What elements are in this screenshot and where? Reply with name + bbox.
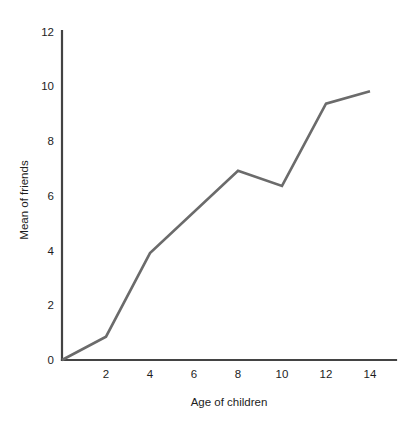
- x-axis-title: Age of children: [191, 396, 268, 408]
- x-tick-label: 14: [364, 368, 377, 380]
- x-tick-label: 8: [235, 368, 241, 380]
- x-tick-label: 10: [276, 368, 289, 380]
- y-tick-label: 10: [41, 80, 54, 92]
- chart-canvas: 12 10 8 6 4 2 0 2 4 6 8 10 12 14 Age of …: [0, 0, 416, 430]
- y-tick-label: 6: [48, 190, 54, 202]
- x-tick-label: 4: [147, 368, 154, 380]
- y-tick-label: 2: [48, 299, 54, 311]
- line-chart: 12 10 8 6 4 2 0 2 4 6 8 10 12 14 Age of …: [0, 0, 416, 430]
- x-tick-label: 2: [103, 368, 109, 380]
- x-tick-label: 12: [320, 368, 333, 380]
- y-tick-label: 0: [48, 354, 54, 366]
- y-axis-title: Mean of friends: [18, 160, 30, 240]
- y-tick-label: 4: [48, 245, 55, 257]
- y-tick-label: 12: [41, 26, 54, 38]
- x-tick-label: 6: [191, 368, 197, 380]
- y-tick-label: 8: [48, 135, 54, 147]
